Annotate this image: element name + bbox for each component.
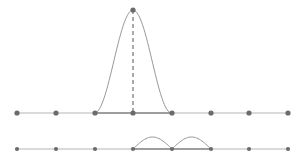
top-row-hat-function	[14, 7, 290, 115]
knot-node	[247, 147, 251, 151]
knot-node	[14, 110, 19, 115]
bottom-row-wavelet-function	[15, 137, 290, 151]
knot-node	[285, 110, 290, 115]
knot-node	[53, 110, 58, 115]
knot-node	[93, 147, 97, 151]
peak-node	[130, 7, 135, 12]
knot-node	[130, 110, 135, 115]
basis-function-diagram	[0, 0, 305, 166]
knot-node	[169, 110, 174, 115]
knot-node	[92, 110, 97, 115]
knot-node	[286, 147, 290, 151]
knot-node	[15, 147, 19, 151]
knot-node	[208, 110, 213, 115]
knot-node	[131, 147, 135, 151]
knot-node	[170, 147, 174, 151]
knot-node	[54, 147, 58, 151]
knot-node	[209, 147, 213, 151]
knot-node	[246, 110, 251, 115]
